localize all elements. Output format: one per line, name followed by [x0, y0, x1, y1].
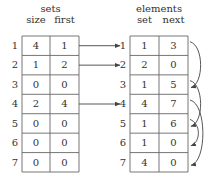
- next-pointer-arrow: [190, 100, 203, 165]
- diagram-lines: [0, 0, 206, 181]
- next-pointer-arrow: [190, 119, 198, 145]
